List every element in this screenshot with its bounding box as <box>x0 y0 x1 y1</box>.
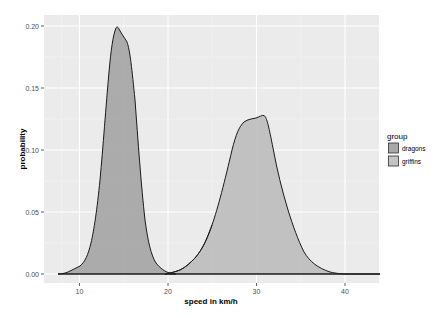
y-tick-005: 0.05 <box>25 209 39 216</box>
legend-label-griffins: griffins <box>402 158 422 166</box>
y-tick-015: 0.15 <box>25 85 39 92</box>
x-tick-30: 30 <box>253 288 261 295</box>
legend-label-dragons: dragons <box>402 145 426 153</box>
x-tick-40: 40 <box>341 288 349 295</box>
legend-key-griffins <box>389 156 399 166</box>
y-tick-010: 0.10 <box>25 147 39 154</box>
legend-key-dragons <box>389 143 399 153</box>
x-axis-ticks <box>80 283 346 286</box>
y-tick-020: 0.20 <box>25 23 39 30</box>
y-tick-0: 0.00 <box>25 271 39 278</box>
density-chart: 0.00 0.05 0.10 0.15 0.20 10 20 30 40 spe… <box>0 0 438 318</box>
y-axis-tick-labels: 0.00 0.05 0.10 0.15 0.20 <box>25 23 39 278</box>
legend: group dragons griffins <box>387 132 426 167</box>
x-axis-tick-labels: 10 20 30 40 <box>76 288 349 295</box>
y-axis-ticks <box>41 26 44 274</box>
x-tick-10: 10 <box>76 288 84 295</box>
x-axis-title: speed in km/h <box>184 297 237 306</box>
x-tick-20: 20 <box>164 288 172 295</box>
y-axis-title: probability <box>18 128 27 169</box>
legend-title: group <box>387 132 408 141</box>
